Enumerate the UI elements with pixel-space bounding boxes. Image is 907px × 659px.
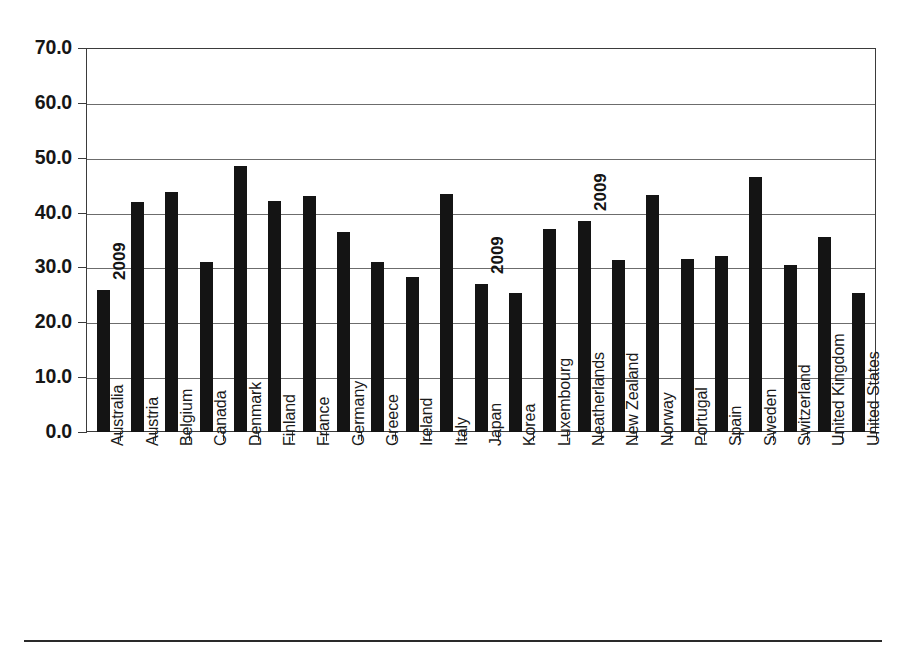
x-axis-category-label: Sweden bbox=[762, 389, 780, 446]
y-axis-tick bbox=[78, 213, 87, 214]
x-axis-category-label: United States bbox=[865, 351, 883, 446]
x-axis-category-label: Italy bbox=[453, 417, 471, 446]
bar bbox=[131, 202, 144, 432]
bar bbox=[509, 293, 522, 432]
x-axis-category-label: Korea bbox=[521, 404, 539, 446]
figure-top-caption bbox=[22, 0, 642, 6]
gridline bbox=[87, 159, 875, 160]
bar bbox=[784, 265, 797, 432]
x-axis-category-label: Norway bbox=[659, 392, 677, 446]
bar bbox=[543, 229, 556, 432]
bar bbox=[406, 277, 419, 432]
x-axis-category-label: Finland bbox=[281, 394, 299, 446]
y-axis-tick bbox=[78, 377, 87, 378]
x-axis-category-label: Germany bbox=[350, 381, 368, 446]
y-axis-tick bbox=[78, 103, 87, 104]
x-axis-category-label: Portugal bbox=[693, 387, 711, 446]
bar bbox=[337, 232, 350, 432]
y-axis-tick-label: 30.0 bbox=[0, 255, 72, 278]
x-axis-category-label: Austria bbox=[144, 397, 162, 446]
bar bbox=[234, 166, 247, 432]
bottom-divider bbox=[24, 640, 882, 642]
bar bbox=[268, 201, 281, 432]
x-axis-category-label: New Zealand bbox=[624, 353, 642, 446]
x-axis-category-label: Neatherlands bbox=[590, 352, 608, 446]
y-axis-tick bbox=[78, 158, 87, 159]
y-axis-tick-label: 70.0 bbox=[0, 36, 72, 59]
bar bbox=[165, 192, 178, 432]
x-axis-category-label: Denmark bbox=[247, 382, 265, 446]
y-axis-tick-label: 0.0 bbox=[0, 420, 72, 443]
bar bbox=[681, 259, 694, 432]
y-axis-tick bbox=[78, 322, 87, 323]
bar bbox=[612, 260, 625, 432]
x-axis-category-label: United Kingdom bbox=[830, 334, 848, 446]
y-axis-tick-label: 40.0 bbox=[0, 201, 72, 224]
figure-container: 70.060.050.040.030.020.010.00.0 Australi… bbox=[0, 0, 907, 659]
annotation-2009: 2009 bbox=[110, 242, 130, 280]
annotation-2009: 2009 bbox=[488, 236, 508, 274]
x-axis-category-label: France bbox=[315, 397, 333, 446]
bar bbox=[749, 177, 762, 432]
y-axis-tick-label: 50.0 bbox=[0, 146, 72, 169]
y-axis-tick bbox=[78, 432, 87, 433]
x-axis-category-label: Japan bbox=[487, 403, 505, 446]
annotation-2009: 2009 bbox=[591, 173, 611, 211]
x-axis-category-label: Belgium bbox=[178, 389, 196, 446]
bar bbox=[440, 194, 453, 432]
x-axis-category-label: Luxembourg bbox=[556, 358, 574, 446]
gridline bbox=[87, 104, 875, 105]
bar bbox=[475, 284, 488, 432]
bar bbox=[578, 221, 591, 432]
bar bbox=[97, 290, 110, 432]
y-axis-tick-label: 20.0 bbox=[0, 310, 72, 333]
bar bbox=[852, 293, 865, 432]
y-axis-tick bbox=[78, 267, 87, 268]
bar bbox=[715, 256, 728, 432]
bar bbox=[303, 196, 316, 432]
x-axis-category-label: Greece bbox=[384, 394, 402, 446]
x-axis-category-label: Spain bbox=[727, 406, 745, 446]
x-axis-category-label: Switzerland bbox=[796, 364, 814, 446]
x-axis-category-label: Australia bbox=[109, 385, 127, 446]
y-axis-tick bbox=[78, 48, 87, 49]
y-axis-tick-label: 60.0 bbox=[0, 91, 72, 114]
x-axis-category-label: Ireland bbox=[418, 398, 436, 446]
bar bbox=[646, 195, 659, 432]
bar bbox=[200, 262, 213, 432]
bar bbox=[371, 262, 384, 432]
x-axis-category-label: Canada bbox=[212, 391, 230, 446]
y-axis-tick-label: 10.0 bbox=[0, 365, 72, 388]
